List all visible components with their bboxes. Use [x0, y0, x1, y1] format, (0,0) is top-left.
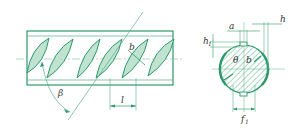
arrow-icon [233, 108, 237, 111]
theta-label: θ [233, 55, 239, 65]
arrow-icon [110, 105, 115, 108]
rib [77, 39, 100, 78]
arrow-icon [40, 62, 44, 67]
rib [47, 39, 73, 78]
longitudinal-rib-bottom [240, 92, 247, 96]
rib [122, 39, 148, 78]
longitudinal-rib-top [240, 42, 247, 46]
rib [148, 39, 174, 76]
section-core [220, 45, 268, 93]
cross-section: a h h 1 θ b f 1 [203, 14, 286, 125]
side-view: β b l [16, 12, 183, 120]
b-label: b [129, 42, 135, 52]
beta-label: β [57, 88, 63, 98]
arrow-icon [64, 109, 70, 113]
b-section-label: b [246, 55, 252, 65]
h-label: h [280, 14, 286, 24]
l-label: l [121, 95, 124, 105]
rib [96, 39, 122, 78]
arrow-icon [131, 105, 136, 108]
a-label: a [229, 21, 234, 31]
f1-subscript: 1 [245, 118, 249, 125]
ribs [27, 38, 174, 78]
arrow-icon [251, 108, 255, 111]
rebar-diagram: β b l a h h 1 θ [0, 0, 297, 132]
rib [27, 38, 49, 73]
h1-subscript: 1 [208, 40, 212, 47]
